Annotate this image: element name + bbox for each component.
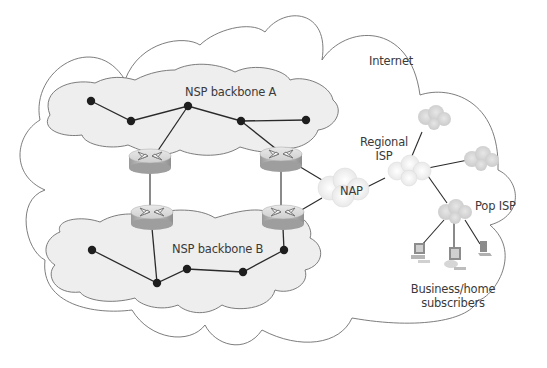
subscribers-label-line1: Business/home: [408, 282, 498, 296]
regional-isp-label-line1: Regional: [358, 135, 410, 149]
router-icon: [131, 205, 173, 230]
subscribers-label: Business/home subscribers: [408, 282, 498, 310]
nsp-backbone-b-label: NSP backbone B: [172, 242, 263, 256]
internet-topology-diagram: [0, 0, 547, 368]
router-icon: [129, 149, 171, 174]
router-icon: [260, 147, 302, 172]
router-icon: [262, 205, 304, 230]
pop-isp-label: Pop ISP: [475, 199, 516, 213]
regional-isp-label: Regional ISP: [358, 135, 410, 163]
subscribers-label-line2: subscribers: [408, 296, 498, 310]
nsp-backbone-a-label: NSP backbone A: [185, 85, 276, 99]
internet-label: Internet: [369, 54, 413, 68]
nap-label: NAP: [340, 184, 363, 198]
regional-isp-label-line2: ISP: [358, 149, 410, 163]
